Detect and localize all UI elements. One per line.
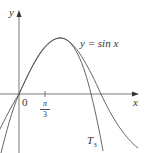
tick-label-pi-over-3: π 3 — [40, 100, 50, 119]
y-axis-label: y — [9, 7, 14, 18]
sin-curve-label: y = sin x — [80, 38, 118, 49]
tick-denominator: 3 — [43, 110, 47, 119]
sin-curve — [0, 38, 138, 148]
sin-label-text: y = sin — [80, 37, 113, 49]
t3-label-sub: 3 — [93, 141, 97, 149]
tick-numerator: π — [43, 99, 47, 108]
x-axis-label: x — [133, 97, 138, 108]
chart: y x 0 π 3 y = sin x T3 — [0, 0, 154, 153]
sin-label-var: x — [113, 37, 118, 49]
t3-curve-label: T3 — [87, 135, 97, 149]
y-axis-arrow-icon — [17, 10, 22, 17]
origin-label: 0 — [22, 97, 28, 108]
plot-area — [0, 0, 154, 153]
